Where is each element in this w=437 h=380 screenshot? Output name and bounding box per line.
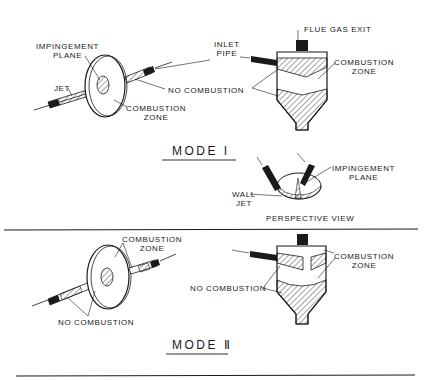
left-jet-nozzle: [48, 99, 60, 108]
mode2-title: MODE Ⅱ: [172, 338, 232, 352]
label-combustion-zone-disc-2: COMBUSTION ZONE: [122, 235, 182, 253]
label-no-combustion: NO COMBUSTION: [168, 86, 244, 95]
perspective-caption: PERSPECTIVE VIEW: [266, 214, 354, 223]
mode2-jet-diagram: [32, 243, 176, 316]
label-combustion-zone-reactor-2: COMBUSTION ZONE: [334, 252, 394, 270]
label-no-combustion-disc-2: NO COMBUSTION: [58, 318, 134, 327]
mode1-title: MODE I: [172, 144, 230, 158]
perspective-view: [250, 153, 331, 199]
label-impingement-plane-perspective: IMPINGEMENT PLANE: [332, 164, 395, 182]
label-flue-gas-exit: FLUE GAS EXIT: [304, 25, 371, 34]
section-divider: [4, 229, 418, 230]
label-wall-jet: WALL JET: [232, 190, 256, 208]
label-combustion-zone-disc: COMBUSTION ZONE: [126, 104, 186, 122]
label-jet: JET: [54, 84, 70, 93]
flue-gas-exit-pipe: [296, 40, 308, 51]
inlet-pipe: [251, 56, 277, 66]
label-combustion-zone-reactor: COMBUSTION ZONE: [334, 58, 394, 76]
label-inlet-pipe: INLET PIPE: [214, 40, 240, 58]
mode1-reactor: [240, 30, 335, 130]
label-impingement-plane: IMPINGEMENT PLANE: [36, 42, 99, 60]
mode2-reactor: [232, 234, 335, 324]
label-no-combustion-reactor-2: NO COMBUSTION: [190, 284, 266, 293]
